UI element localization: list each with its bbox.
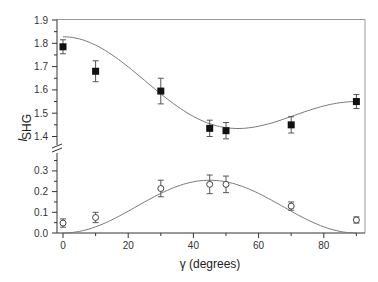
x-tick-label: 40 (188, 240, 200, 251)
data-point-filled-square (92, 68, 99, 75)
data-point-open-circle (353, 217, 359, 223)
y-tick-label: 1.5 (34, 108, 48, 119)
data-point-open-circle (288, 203, 294, 209)
data-point-filled-square (60, 43, 67, 50)
y-tick-label: 0.3 (34, 165, 48, 176)
data-point-open-circle (60, 220, 66, 226)
data-point-filled-square (223, 127, 230, 134)
y-tick-label: 1.4 (34, 131, 48, 142)
data-point-filled-square (157, 88, 164, 95)
chart: 0204060801.41.51.61.71.81.90.00.10.20.3 … (0, 0, 378, 282)
axis-ticks: 0204060801.41.51.61.71.81.90.00.10.20.3 (34, 15, 356, 252)
y-axis-title: I SHG (16, 114, 34, 142)
data-point-filled-square (288, 121, 295, 128)
y-tick-label: 1.9 (34, 15, 48, 26)
data-point-open-circle (223, 181, 229, 187)
data-points (60, 40, 360, 227)
data-point-open-circle (207, 181, 213, 187)
x-tick-label: 0 (60, 240, 66, 251)
x-tick-label: 80 (318, 240, 330, 251)
y-tick-label: 0.0 (34, 228, 48, 239)
data-point-filled-square (353, 98, 360, 105)
upper-fit-curve (63, 37, 356, 129)
x-tick-label: 20 (123, 240, 135, 251)
y-tick-label: 1.7 (34, 61, 48, 72)
data-point-open-circle (158, 185, 164, 191)
data-point-filled-square (206, 125, 213, 132)
axis-break-mark (52, 148, 62, 152)
y-axis-title-subscript: SHG (20, 114, 34, 140)
data-point-open-circle (93, 214, 99, 220)
x-tick-label: 60 (253, 240, 265, 251)
y-tick-label: 0.1 (34, 207, 48, 218)
x-axis-title: γ (degrees) (180, 257, 241, 271)
y-tick-label: 1.8 (34, 38, 48, 49)
y-tick-label: 0.2 (34, 186, 48, 197)
y-tick-label: 1.6 (34, 84, 48, 95)
